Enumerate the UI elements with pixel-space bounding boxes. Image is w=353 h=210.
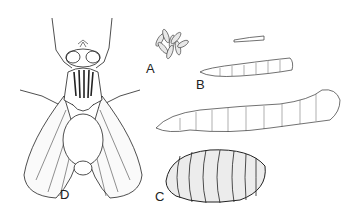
illustration [0, 0, 353, 210]
adult-fly [20, 18, 142, 198]
life-cycle-diagram: A B C D [0, 0, 353, 210]
larvae [156, 36, 340, 132]
label-larvae: B [196, 78, 205, 91]
label-pupa: C [155, 190, 164, 203]
label-eggs: A [146, 62, 155, 75]
pupa [166, 150, 265, 203]
label-adult: D [60, 188, 69, 201]
eggs [154, 29, 189, 60]
